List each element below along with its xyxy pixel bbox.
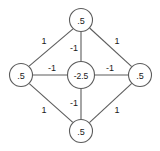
edge-label-center-left: -1 [48, 63, 56, 73]
node-right-label: .5 [136, 71, 144, 81]
graph-canvas: .5 .5 -2.5 .5 .5 1 1 1 1 -1 -1 -1 -1 [0, 0, 160, 151]
edge-label-center-top: -1 [70, 43, 78, 53]
edge-label-top-right: 1 [114, 36, 119, 46]
edge-label-center-bottom: -1 [70, 98, 78, 108]
edge-label-right-bottom: 1 [114, 105, 119, 115]
edge-top-left [29, 29, 73, 66]
weighted-graph-figure: .5 .5 -2.5 .5 .5 1 1 1 1 -1 -1 -1 -1 [0, 0, 160, 151]
edge-left-bottom [29, 84, 73, 123]
node-bottom-label: .5 [77, 127, 85, 137]
edge-label-left-bottom: 1 [41, 105, 46, 115]
node-left-label: .5 [17, 71, 25, 81]
edge-label-top-left: 1 [41, 36, 46, 46]
edge-label-center-right: -1 [106, 63, 114, 73]
edge-top-right [90, 28, 132, 67]
edge-right-bottom [89, 83, 131, 122]
node-top-label: .5 [77, 16, 85, 26]
node-center-label: -2.5 [74, 71, 89, 81]
